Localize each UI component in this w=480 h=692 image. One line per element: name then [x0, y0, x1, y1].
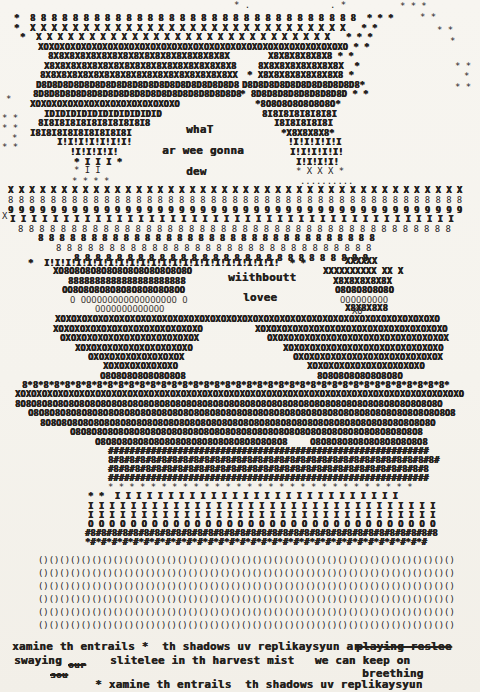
art-row: *: [6, 95, 11, 104]
art-row: * *: [2, 114, 18, 123]
word-what: whaT: [186, 124, 213, 135]
art-row: *#*#*#*#*#*#*#*#*#*#*#*#*#*#*#*#*#*#*#*#…: [85, 538, 427, 547]
art-row: * X X X X X X X X X X X X X X X X X X X …: [20, 33, 373, 42]
art-row: * *: [437, 26, 453, 35]
art-row: * *: [2, 124, 18, 133]
art-row: * *: [455, 83, 471, 92]
art-row: 8 8 8 8 8 8 8 8 8 8 8 8 8 8 8 8 8 8 8 8 …: [56, 244, 377, 253]
word-dew: dew: [186, 166, 206, 177]
struck-sou: sou: [50, 670, 68, 680]
art-row: 8X8X8X8X8X8X8X8X8X8X8X8X8X8X8X8X8X: [48, 52, 230, 61]
art-row: 8 8 8 8 8 8 8 8 8 8 8 8 8 8 8 8 8 8 8 8 …: [8, 196, 468, 205]
poem-line-1: xamine th entrails * th shadows uv repli…: [12, 641, 360, 652]
art-row: * *: [455, 62, 471, 71]
art-row: * *: [2, 143, 18, 152]
art-row: 8X8X8X8X8X8X8X8X8X8X8X8X8X8X8X8X8X8XX: [40, 71, 238, 80]
art-row: XOXOXOXOXOXOXO: [103, 362, 178, 371]
art-row: * *: [420, 13, 436, 22]
art-row: XOXOXOXOXOXOXOXOXOXOXOXOXOXO: [30, 100, 180, 109]
struck-playing-reslee: playing reslee: [356, 641, 452, 652]
poem-line-2: slitelee in th harvest mist we can keep …: [110, 655, 410, 666]
art-row: *: [464, 72, 469, 81]
top-marks: . *: [330, 1, 346, 10]
top-marks: * * *: [400, 2, 427, 11]
art-row: XXXXXXXXXX XX X: [323, 267, 403, 276]
art-row: OXOXOXOXOXOXOXOXOXOXOXOXOX: [60, 334, 199, 343]
art-row: OOOOOOOOOOOOO: [95, 305, 164, 314]
art-row: 8D8D8D8D8D8D8D8D8D8D8D8D8D8D8D8D8D8D8D8: [33, 90, 241, 99]
art-row: *: [450, 37, 455, 46]
art-row: XXXXXX: [345, 257, 377, 266]
art-row: *8O8O8O8O8O8O8O*: [255, 100, 341, 109]
art-row: 8I8I8I8I8I8I8I8I8I8I8: [38, 119, 150, 128]
art-row: XOXOXOXOXOXOXOXOXOXOXOXOXOXOXOXOXOXOXOXO…: [55, 315, 440, 324]
art-row: X X X X X X X X X X X X X X X X X X X X …: [8, 186, 468, 195]
art-row: I I I I I I I I I I I I I I I I I I I I …: [10, 215, 459, 224]
art-row: 8 8 8 8 8 8 8 8 8 8 8 8 8 8 8 8 8 8 8 8 …: [38, 234, 380, 243]
art-row: OO8O8O8O8O8O8O8O8O8O8OO: [62, 286, 185, 295]
bars-row: ()()()()()()()()()()()()()()()()()()()()…: [38, 621, 455, 630]
art-row: XOXOXOXOXOXOXOXOXOXOXO: [307, 362, 425, 371]
art-row: X8X8X8X8X8X8 * *: [268, 52, 354, 61]
art-row: !I!I!I!I!I: [288, 138, 341, 147]
art-row: OXOXOXOXOXOXOXOXOXOXOXOXOXOXOXOXOX: [267, 334, 449, 343]
bars-row: ()()()()()()()()()()()()()()()()()()()()…: [38, 582, 455, 591]
art-row: * I I: [74, 166, 101, 175]
art-row: I8I8I8I8I8I: [274, 119, 333, 128]
bars-row: ()()()()()()()()()()()()()()()()()()()()…: [38, 569, 455, 578]
art-row: * 8 8 8 8 8 8 8 8 8 8 8 8 8 8 8 8 8 8 8 …: [14, 14, 393, 23]
bars-row: ()()()()()()()()()()()()()()()()()()()()…: [38, 608, 455, 617]
art-row: XO8O8O8O8O8O8O8O8O8O8O8O8O: [53, 267, 192, 276]
art-row: !I!I!I!I!: [70, 148, 118, 157]
art-row: * X X X *: [296, 167, 344, 176]
word-without: wiithboutt: [228, 272, 296, 283]
top-marks: * .: [234, 1, 250, 10]
word-ar-we-gonna: ar wee gonna: [162, 145, 244, 156]
bars-row: ()()()()()()()()()()()()()()()()()()()()…: [38, 595, 455, 604]
art-row: XOXOXOXOXOXOXOXOXOXOXOXOXOXOXOXOXOXOXOXO…: [15, 390, 464, 399]
art-row: I!I!I!I!I!I!I!: [57, 138, 132, 147]
poem-line-2-swaying: swaying: [14, 655, 62, 666]
art-row: O8O8O8O8O8O8O8O8O8O8O8O8O8O8O8O8O8O8O8O8…: [28, 409, 455, 418]
art-row: * 8D8D8D8D8D8D8D8D8D * *: [240, 90, 368, 99]
art-row: O8O8O8O8O8O8O8O8O8O8O8O8O8O8O8O8O8O8O8O8…: [70, 428, 423, 437]
word-love: lovee: [243, 292, 277, 303]
poem-line-4: * xamine th entrails th shadows uv repli…: [95, 679, 422, 690]
art-row: O8O8O8O8O8O: [335, 286, 394, 295]
art-row: X: [2, 212, 7, 221]
art-row: I!I!I!I!I!: [290, 148, 343, 157]
typewriter-poem-page: * .. ** * ** 8 8 8 8 8 8 8 8 8 8 8 8 8 8…: [0, 0, 480, 692]
art-row: * X8X8X8X8X8X8X8X8 *: [247, 71, 354, 80]
art-row: * * I I I I I I I I I I I I I I I I I I …: [88, 492, 403, 501]
struck-our: our: [68, 660, 86, 670]
bars-row: ()()()()()()()()()()()()()()()()()()()()…: [38, 556, 455, 565]
